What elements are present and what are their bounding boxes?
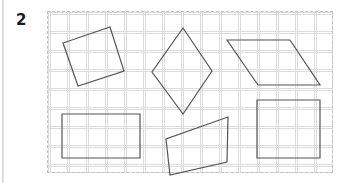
question-number-label: 2 bbox=[16, 11, 26, 29]
left-margin-rule bbox=[2, 0, 4, 183]
grid-panel bbox=[47, 11, 333, 173]
worksheet-page: 2 bbox=[0, 0, 348, 183]
